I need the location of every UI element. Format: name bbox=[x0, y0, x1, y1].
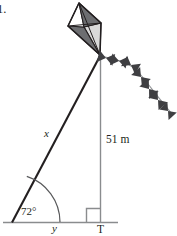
hypotenuse-label: x bbox=[44, 128, 49, 139]
ground-point-label: T bbox=[97, 224, 104, 236]
right-angle-marker bbox=[87, 209, 101, 223]
figure-canvas bbox=[0, 0, 177, 236]
angle-label: 72° bbox=[21, 206, 36, 217]
base-label: y bbox=[52, 223, 57, 234]
triangle-group bbox=[3, 52, 118, 223]
height-label: 51 m bbox=[106, 134, 129, 146]
kite-string-hypotenuse bbox=[12, 55, 101, 223]
kite-body bbox=[68, 3, 101, 55]
kite-tail bbox=[97, 50, 177, 120]
kite-trigonometry-figure: 1. x y 51 m T 72° bbox=[0, 0, 177, 236]
problem-number: 1. bbox=[0, 3, 6, 16]
